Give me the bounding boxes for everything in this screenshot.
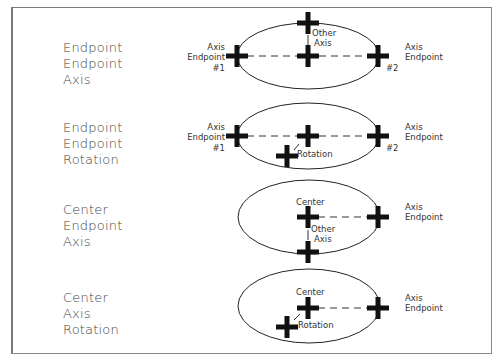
- label-endpoint: Endpoint: [187, 52, 225, 62]
- label-num-1: #1: [212, 63, 225, 73]
- label-axis: Axis: [314, 234, 332, 244]
- ellipse-diagrams: Axis Endpoint #1 Other Axis #2 Axis Endp…: [0, 0, 504, 364]
- label-endpoint: Endpoint: [405, 303, 443, 313]
- label-endpoint: Endpoint: [405, 132, 443, 142]
- cross-marker-icon: [276, 145, 298, 167]
- label-axis: Axis: [405, 293, 423, 303]
- row-endpoint-endpoint-rotation: Axis Endpoint #1 Rotation #2 Axis Endpoi…: [187, 103, 443, 169]
- row-center-endpoint-axis: Center Other Axis Axis Endpoint: [238, 180, 443, 263]
- label-center: Center: [296, 197, 325, 207]
- label-axis: Axis: [405, 122, 423, 132]
- cross-marker-icon: [367, 297, 389, 319]
- label-axis: Axis: [314, 38, 332, 48]
- cross-marker-icon: [297, 45, 319, 67]
- cross-marker-icon: [367, 206, 389, 228]
- cross-marker-icon: [297, 125, 319, 147]
- label-center: Center: [296, 287, 325, 297]
- cross-marker-icon: [297, 297, 319, 319]
- label-endpoint: Endpoint: [405, 52, 443, 62]
- label-axis: Axis: [405, 202, 423, 212]
- label-axis: Axis: [207, 42, 225, 52]
- label-axis: Axis: [207, 122, 225, 132]
- row-endpoint-endpoint-axis: Axis Endpoint #1 Other Axis #2 Axis Endp…: [187, 12, 443, 89]
- cross-marker-icon: [297, 241, 319, 263]
- label-other: Other: [312, 28, 337, 38]
- label-endpoint: Endpoint: [405, 212, 443, 222]
- label-rotation: Rotation: [298, 320, 334, 330]
- label-num-2: #2: [386, 63, 399, 73]
- label-num-2: #2: [386, 143, 399, 153]
- label-rotation: Rotation: [297, 149, 333, 159]
- row-center-axis-rotation: Center Rotation Axis Endpoint: [238, 269, 443, 343]
- label-num-1: #1: [212, 143, 225, 153]
- label-endpoint: Endpoint: [187, 132, 225, 142]
- cross-marker-icon: [226, 125, 248, 147]
- label-other: Other: [311, 224, 336, 234]
- label-axis: Axis: [405, 42, 423, 52]
- cross-marker-icon: [226, 45, 248, 67]
